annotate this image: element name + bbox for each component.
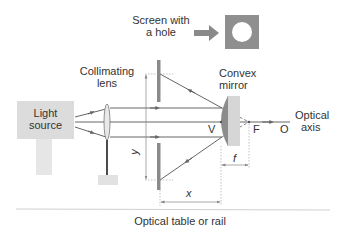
label-center: O xyxy=(280,123,289,135)
label-f: f xyxy=(233,152,236,164)
screen-hole-icon xyxy=(225,15,259,49)
parallel-rays xyxy=(110,108,290,137)
label-screen-line1: Screen with xyxy=(131,14,191,26)
label-convex-mirror: Convex mirror xyxy=(219,67,256,91)
label-screen-line2: a hole xyxy=(131,26,191,38)
label-light-source: Light source xyxy=(17,107,74,131)
screen-with-hole xyxy=(157,60,161,190)
label-optical-table: Optical table or rail xyxy=(120,215,240,227)
label-y: y xyxy=(128,149,140,155)
focal-point xyxy=(248,121,250,123)
collimating-lens xyxy=(104,104,110,175)
label-focus: F xyxy=(253,123,260,135)
label-optical-axis: Optical axis xyxy=(295,109,329,133)
label-light-line2: source xyxy=(17,119,74,131)
label-optical-line1: Optical xyxy=(295,109,329,121)
label-collimating-line1: Collimating xyxy=(74,65,140,77)
label-convex-line1: Convex xyxy=(219,67,256,79)
label-x: x xyxy=(186,187,192,199)
label-vertex: V xyxy=(208,123,215,135)
label-collimating-line2: lens xyxy=(74,77,140,89)
convex-mirror xyxy=(221,96,240,146)
optical-rail xyxy=(16,209,330,210)
label-convex-line2: mirror xyxy=(219,79,256,91)
diverging-rays xyxy=(75,109,106,137)
label-optical-line2: axis xyxy=(295,121,329,133)
label-screen-with-hole: Screen with a hole xyxy=(131,14,191,38)
label-light-line1: Light xyxy=(17,107,74,119)
vertex-point xyxy=(220,121,222,123)
label-collimating-lens: Collimating lens xyxy=(74,65,140,89)
pointer-arrow-icon xyxy=(194,25,219,41)
